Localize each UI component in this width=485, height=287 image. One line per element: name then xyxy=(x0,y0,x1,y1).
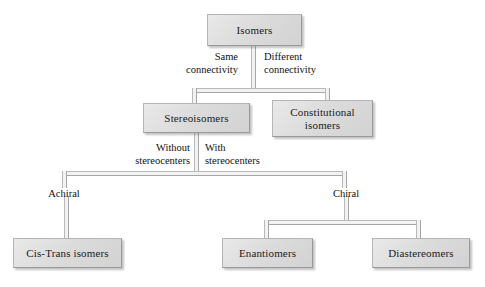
edge-label-achiral-line1: Achiral xyxy=(26,188,102,201)
node-stereoisomers[interactable]: Stereoisomers xyxy=(143,103,250,133)
node-isomers[interactable]: Isomers xyxy=(207,14,302,46)
connector-to-chiral xyxy=(342,171,347,188)
node-stereoisomers-label: Stereoisomers xyxy=(160,112,232,125)
edge-label-different-connectivity-line1: Different xyxy=(264,51,364,64)
node-diastereomers-label: Diastereomers xyxy=(384,247,457,260)
edge-label-without-stereocenters: Without stereocenters xyxy=(98,142,190,167)
connector-level1-bar xyxy=(192,88,330,93)
node-constitutional-isomers-label-line1: Constitutional xyxy=(286,106,358,119)
edge-label-chiral-line1: Chiral xyxy=(308,188,384,201)
edge-label-same-connectivity-line2: connectivity xyxy=(150,64,238,77)
edge-label-chiral: Chiral xyxy=(308,188,384,201)
edge-label-different-connectivity-line2: connectivity xyxy=(264,64,364,77)
edge-label-without-stereocenters-line2: stereocenters xyxy=(98,155,190,168)
edge-label-with-stereocenters-line2: stereocenters xyxy=(205,155,297,168)
connector-to-achiral xyxy=(62,171,67,188)
connector-stereoisomers-stem xyxy=(194,133,199,173)
edge-label-achiral: Achiral xyxy=(26,188,102,201)
edge-label-with-stereocenters: With stereocenters xyxy=(205,142,297,167)
connector-isomers-stem xyxy=(251,46,256,90)
edge-label-same-connectivity-line1: Same xyxy=(150,51,238,64)
connector-level2-bar xyxy=(62,171,347,176)
node-isomers-label: Isomers xyxy=(233,24,277,37)
node-cis-trans-isomers-label: Cis-Trans isomers xyxy=(22,247,113,260)
edge-label-same-connectivity: Same connectivity xyxy=(150,51,238,76)
node-diastereomers[interactable]: Diastereomers xyxy=(372,238,470,268)
connector-to-enantiomers xyxy=(264,220,269,239)
node-constitutional-isomers[interactable]: Constitutional isomers xyxy=(272,100,373,137)
connector-to-diastereomers xyxy=(416,220,421,239)
node-enantiomers[interactable]: Enantiomers xyxy=(222,238,313,268)
connector-level3-bar xyxy=(264,220,421,225)
connector-to-stereoisomers xyxy=(192,88,197,104)
connector-achiral-to-cistrans xyxy=(64,196,69,238)
edge-label-without-stereocenters-line1: Without xyxy=(98,142,190,155)
node-constitutional-isomers-label-line2: isomers xyxy=(301,119,344,132)
node-enantiomers-label: Enantiomers xyxy=(235,247,300,260)
edge-label-with-stereocenters-line1: With xyxy=(205,142,297,155)
isomers-classification-diagram: Same connectivity Different connectivity… xyxy=(0,0,485,287)
edge-label-different-connectivity: Different connectivity xyxy=(264,51,364,76)
node-cis-trans-isomers[interactable]: Cis-Trans isomers xyxy=(13,238,122,268)
